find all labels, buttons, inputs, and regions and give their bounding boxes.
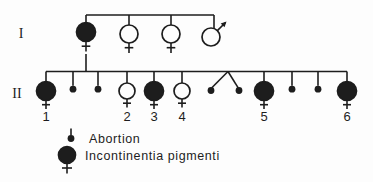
legend-abortion-dot (68, 135, 75, 142)
II-2-symbol (119, 83, 135, 99)
II-1-symbol (37, 82, 56, 101)
legend-label-abortion: Abortion (89, 132, 140, 146)
II-6-number: 6 (343, 109, 350, 124)
I-4-symbol (202, 28, 220, 46)
II-a2-abortion-dot (95, 86, 102, 93)
II-twins-right-abortion-dot (236, 87, 243, 94)
legend-label-affected_female: Incontinentia pigmenti (85, 149, 220, 163)
II-3-symbol (145, 82, 164, 101)
II-6-symbol (338, 82, 357, 101)
generation-I-label: I (19, 26, 24, 41)
pedigree-svg: III123456AbortionIncontinentia pigmenti (0, 0, 373, 182)
I-1-symbol (77, 23, 96, 42)
II-4-number: 4 (178, 109, 185, 124)
II-a4-abortion-dot (315, 86, 322, 93)
generation-II-label: II (12, 86, 22, 101)
II-4-symbol (174, 83, 190, 99)
II-5-symbol (255, 82, 274, 101)
II-a3-abortion-dot (289, 86, 296, 93)
II-a1-abortion-dot (70, 86, 77, 93)
II-twins-left-abortion-dot (208, 87, 215, 94)
II-5-number: 5 (260, 109, 267, 124)
legend-affected-female-symbol (59, 147, 76, 164)
II-3-number: 3 (150, 109, 157, 124)
II-2-number: 2 (123, 109, 130, 124)
I-3-symbol (162, 25, 180, 43)
I-2-symbol (120, 25, 138, 43)
pedigree-figure: III123456AbortionIncontinentia pigmenti (0, 0, 373, 182)
II-1-number: 1 (42, 109, 49, 124)
